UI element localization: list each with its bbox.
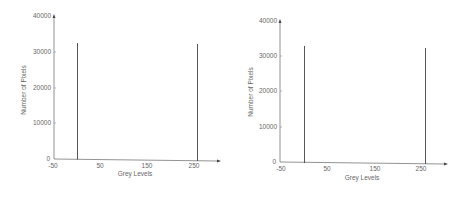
x-axis (54, 159, 218, 161)
x-tick-250: 250 (416, 165, 427, 172)
y-tick-20000: 20000 (33, 84, 51, 91)
histogram-plot-left: 40000 30000 20000 10000 0 -50 50 150 250… (0, 0, 235, 198)
y-tick-30000: 30000 (33, 48, 51, 55)
x-tick-250: 250 (189, 162, 200, 169)
y-axis-label: Number of Pixels (247, 67, 254, 117)
y-tick-30000: 30000 (259, 52, 277, 59)
x-tick-50: 50 (323, 165, 331, 172)
y-axis-arrow-icon (279, 19, 282, 23)
y-axis-label: Number of Pixels (20, 65, 27, 115)
y-axis-arrow-icon (53, 14, 56, 18)
x-tick-150: 150 (370, 165, 381, 172)
y-tick-0: 0 (272, 158, 276, 165)
x-tick-50: 50 (96, 162, 104, 169)
x-tick-neg50: -50 (48, 162, 58, 169)
x-axis-arrow-icon (217, 160, 221, 163)
x-tick-neg50: -50 (276, 165, 286, 172)
y-tick-40000: 40000 (33, 12, 51, 19)
y-tick-10000: 10000 (259, 123, 277, 130)
x-axis-label: Grey Levels (345, 174, 380, 182)
x-axis-label: Grey Levels (118, 170, 153, 178)
y-tick-40000: 40000 (259, 17, 277, 24)
histogram-chart-right: 40000 30000 20000 10000 0 -50 50 150 250… (235, 0, 471, 198)
histogram-plot-right: 40000 30000 20000 10000 0 -50 50 150 250… (235, 0, 471, 198)
y-tick-10000: 10000 (33, 119, 51, 126)
y-tick-20000: 20000 (259, 87, 277, 94)
x-tick-150: 150 (142, 162, 153, 169)
histogram-chart-left: 40000 30000 20000 10000 0 -50 50 150 250… (0, 0, 235, 198)
y-tick-0: 0 (46, 155, 50, 162)
x-axis-arrow-icon (444, 163, 448, 166)
